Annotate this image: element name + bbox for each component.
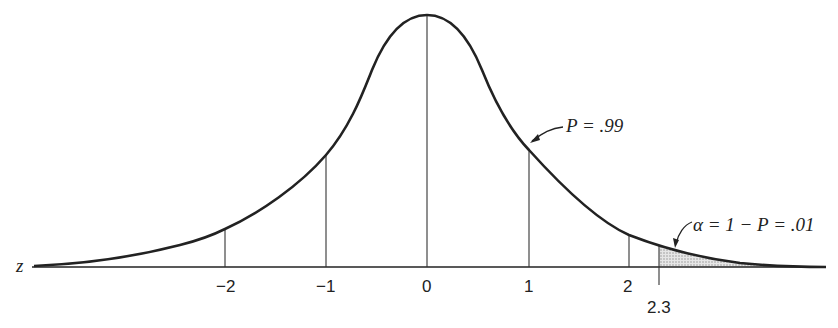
tick-label-0: 0: [422, 277, 431, 296]
tick-label-2-3: 2.3: [647, 298, 671, 317]
tick-label-neg2: −2: [216, 277, 235, 296]
tick-label-1: 1: [524, 277, 533, 296]
alpha-arrow-icon: [673, 222, 692, 248]
tick-label-neg1: −1: [316, 277, 335, 296]
ordinate-lines: [225, 15, 659, 285]
tick-label-2: 2: [623, 277, 632, 296]
p-annotation: P = .99: [565, 115, 624, 136]
alpha-annotation: α = 1 − P = .01: [693, 214, 814, 235]
normal-curve-diagram: z −2 −1 0 1 2 2.3 P = .99 α = 1 − P = .0…: [0, 0, 838, 328]
axis-label-z: z: [15, 255, 24, 276]
p-arrow-icon: [530, 127, 563, 143]
